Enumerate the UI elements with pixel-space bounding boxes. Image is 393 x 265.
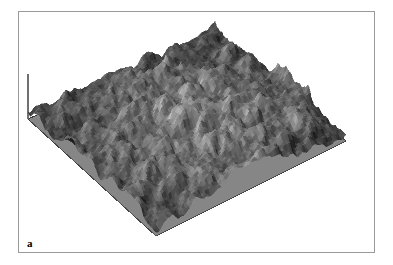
surface-plot-canvas — [19, 12, 374, 252]
surface-plot-svg — [19, 12, 374, 252]
panel-label: a — [27, 238, 33, 249]
figure-root: a — [0, 0, 393, 265]
figure-panel-frame: a — [18, 11, 375, 253]
